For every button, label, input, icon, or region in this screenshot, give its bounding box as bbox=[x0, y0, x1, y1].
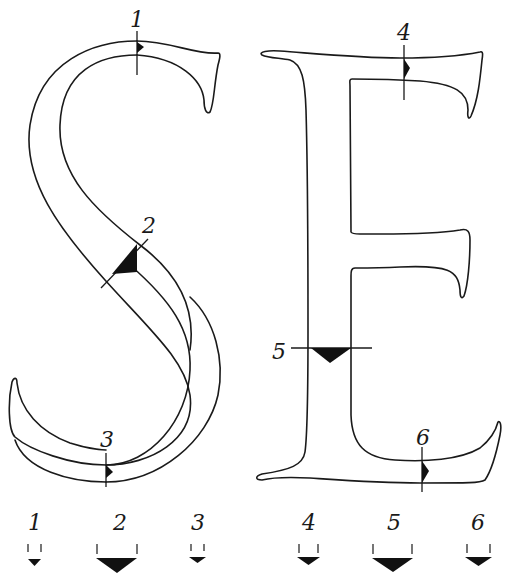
letter-s-lower-bowl-outline bbox=[106, 297, 220, 482]
marker-6: 6 bbox=[416, 425, 430, 492]
marker-1-label: 1 bbox=[130, 7, 144, 32]
legend-nib-medium-icon bbox=[465, 557, 492, 566]
nib-4-icon bbox=[404, 59, 410, 79]
legend-item-6: 6 bbox=[465, 510, 492, 566]
legend-label-6: 6 bbox=[471, 510, 485, 535]
marker-5-label: 5 bbox=[272, 339, 286, 364]
legend-nib-small-icon bbox=[189, 557, 206, 563]
nib-2-icon bbox=[112, 244, 137, 274]
nib-5-icon bbox=[311, 348, 351, 363]
legend-label-5: 5 bbox=[387, 510, 401, 535]
legend-nib-large-icon bbox=[96, 558, 137, 573]
marker-6-label: 6 bbox=[416, 425, 430, 450]
legend-nib-medium-icon bbox=[297, 557, 320, 565]
legend-item-2: 2 bbox=[96, 510, 137, 573]
letter-s-inner-outline bbox=[60, 55, 191, 350]
legend-item-4: 4 bbox=[297, 510, 320, 565]
legend-nib-large-icon bbox=[372, 558, 413, 572]
letter-e-outline bbox=[257, 51, 501, 483]
marker-3-label: 3 bbox=[100, 427, 114, 452]
nib-1-icon bbox=[137, 42, 144, 53]
legend: 1 2 3 4 5 bbox=[28, 510, 492, 573]
marker-2-label: 2 bbox=[141, 213, 156, 238]
legend-label-3: 3 bbox=[191, 510, 205, 535]
marker-4-label: 4 bbox=[396, 20, 411, 45]
legend-item-3: 3 bbox=[189, 510, 206, 563]
letter-e bbox=[257, 51, 501, 483]
letterform-stroke-diagram: 1 2 3 4 5 6 1 bbox=[0, 0, 511, 579]
legend-label-1: 1 bbox=[28, 510, 42, 535]
marker-5: 5 bbox=[272, 339, 372, 364]
legend-item-1: 1 bbox=[28, 510, 42, 566]
legend-nib-small-icon bbox=[28, 559, 41, 566]
letter-s-top-terminal bbox=[137, 41, 220, 113]
legend-label-4: 4 bbox=[301, 510, 316, 535]
legend-item-5: 5 bbox=[372, 510, 413, 572]
letter-s-outer-outline bbox=[9, 41, 190, 465]
legend-label-2: 2 bbox=[112, 510, 127, 535]
nib-3-icon bbox=[106, 465, 113, 478]
letter-s bbox=[9, 41, 220, 482]
nib-6-icon bbox=[422, 461, 429, 483]
marker-4: 4 bbox=[396, 20, 411, 100]
marker-3: 3 bbox=[100, 427, 114, 487]
